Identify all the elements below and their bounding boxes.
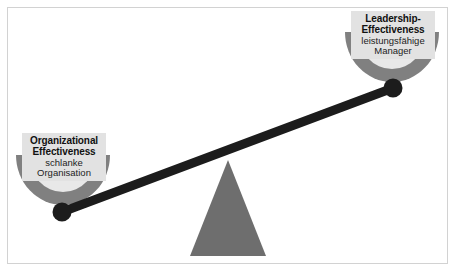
left-pivot-knob xyxy=(53,203,72,222)
right-pan-title-line2: Effectiveness xyxy=(353,25,433,36)
right-pan-label: Leadership- Effectiveness leistungsfähig… xyxy=(351,11,435,59)
left-pan-title-line2: Effectiveness xyxy=(24,147,104,158)
fulcrum-triangle xyxy=(190,160,266,256)
left-pan-subtitle-line2: Organisation xyxy=(24,168,104,178)
right-pivot-knob xyxy=(384,79,403,98)
left-pan-label: Organizational Effectiveness schlanke Or… xyxy=(22,133,106,181)
diagram-canvas: Organizational Effectiveness schlanke Or… xyxy=(0,0,456,274)
right-pan-subtitle-line2: Manager xyxy=(353,46,433,56)
